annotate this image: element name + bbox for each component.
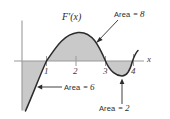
x-tick-label-3: 3 bbox=[103, 67, 108, 76]
x-tick-label-1: 1 bbox=[44, 67, 49, 76]
annotation-area-2-value: 2 bbox=[125, 103, 130, 113]
x-tick-label-2: 2 bbox=[73, 67, 78, 76]
annotation-area-8-word: Area bbox=[114, 10, 130, 19]
x-tick-label-4: 4 bbox=[131, 67, 136, 76]
axis-label-x: x bbox=[147, 55, 151, 64]
calculus-figure: F'(x) x 1 2 3 4 Area=8 Area=6 Area=2 bbox=[0, 0, 170, 119]
curve-label-f-prime: F'(x) bbox=[62, 12, 81, 22]
arrowhead-area-2 bbox=[120, 79, 125, 85]
arrowhead-area-6 bbox=[37, 85, 42, 90]
annotation-area-8-value: 8 bbox=[140, 9, 145, 19]
annotation-area-6: Area=6 bbox=[64, 83, 94, 92]
annotation-area-2-equals: = bbox=[118, 104, 123, 113]
annotation-area-6-word: Area bbox=[64, 83, 80, 92]
leader-line-area-8 bbox=[98, 20, 118, 41]
arrowhead-area-8 bbox=[96, 37, 103, 43]
annotation-area-6-equals: = bbox=[83, 83, 88, 92]
annotation-area-6-value: 6 bbox=[90, 82, 95, 92]
annotation-area-8-equals: = bbox=[133, 10, 138, 19]
annotation-area-2-word: Area bbox=[99, 104, 115, 113]
annotation-area-2: Area=2 bbox=[99, 104, 129, 113]
annotation-area-8: Area=8 bbox=[114, 10, 144, 19]
plot-area bbox=[0, 0, 170, 119]
